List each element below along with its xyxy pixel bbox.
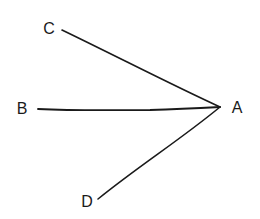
edge-d-to-a bbox=[98, 107, 220, 199]
node-label-d: D bbox=[81, 194, 93, 210]
node-label-a: A bbox=[232, 100, 243, 116]
node-label-b: B bbox=[17, 101, 28, 117]
node-label-c: C bbox=[43, 21, 55, 37]
edge-c-to-a bbox=[62, 30, 220, 107]
converging-lines-diagram bbox=[0, 0, 260, 219]
edge-b-to-a bbox=[38, 107, 220, 110]
